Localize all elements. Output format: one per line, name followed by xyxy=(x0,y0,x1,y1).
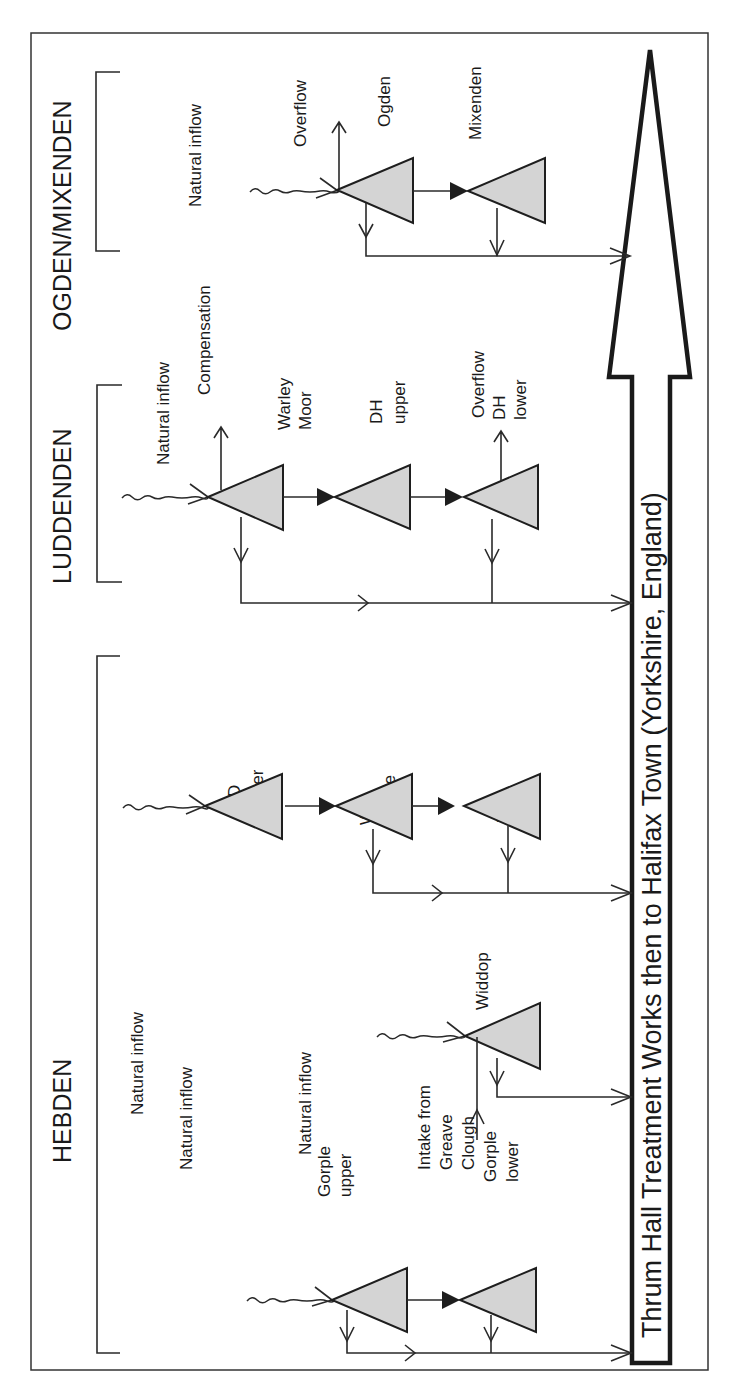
gorple-lower-label-line1: Gorple xyxy=(481,1131,500,1182)
ogden-overflow-label: Overflow xyxy=(291,79,310,147)
main-arrow-label: Thrum Hall Treatment Works then to Halif… xyxy=(637,492,667,1338)
warley-moor-label-line1: Warley xyxy=(275,377,294,430)
diagram-frame xyxy=(31,33,708,1370)
mixenden-reservoir-label: Mixenden xyxy=(466,66,485,140)
warley-moor-label-line2: Moor xyxy=(296,391,315,430)
group-title-luddenden: LUDDENDEN xyxy=(48,428,76,584)
group-title-hebden: HEBDEN xyxy=(48,1059,76,1163)
ogden-reservoir-label: Ogden xyxy=(375,76,394,127)
dh-lower-label-line1: DH xyxy=(490,395,509,420)
gorple-natural-inflow-label: Natural inflow xyxy=(177,1066,196,1170)
gorple-lower-label-line2: lower xyxy=(503,1141,522,1182)
gorple-upper-label-line1: Gorple xyxy=(315,1146,334,1197)
dh-lower-label-line2: lower xyxy=(511,379,530,420)
luddenden-compensation-label: Compensation xyxy=(195,285,214,395)
group-title-ogden-mixenden: OGDEN/MIXENDEN xyxy=(48,100,76,331)
luddenden-overflow-label: Overflow xyxy=(469,350,488,418)
widdop-natural-inflow-label: Natural inflow xyxy=(296,1051,315,1155)
luddenden-natural-inflow-label: Natural inflow xyxy=(154,361,173,465)
dh-upper-label-line2: upper xyxy=(390,380,409,424)
intake-label-line3: Clough xyxy=(459,1116,478,1170)
intake-label-line1: Intake from xyxy=(415,1085,434,1170)
reservoir-system-diagram: Thrum Hall Treatment Works then to Halif… xyxy=(0,0,747,1395)
ogden-natural-inflow-label: Natural inflow xyxy=(186,103,205,207)
intake-label-line2: Greave xyxy=(437,1114,456,1170)
widdop-reservoir-label: Widdop xyxy=(473,952,492,1010)
dh-upper-label-line1: DH xyxy=(367,399,386,424)
wd-natural-inflow-label: Natural inflow xyxy=(128,1011,147,1115)
gorple-upper-label-line2: upper xyxy=(336,1153,355,1197)
